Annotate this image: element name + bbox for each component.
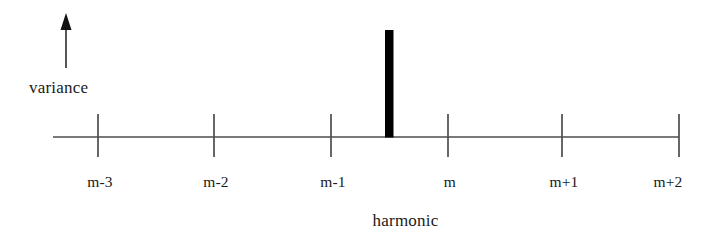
tick-label-m-plus-2: m+2	[653, 173, 682, 191]
x-axis-title: harmonic	[373, 211, 439, 230]
tick-label-m-3: m-3	[87, 173, 113, 191]
variance-spike-bar	[385, 30, 394, 138]
tick-label-m-plus-1: m+1	[549, 173, 578, 191]
up-arrow-icon	[61, 13, 72, 68]
tick-label-m-2: m-2	[203, 173, 229, 191]
arrow-head	[61, 13, 72, 30]
figure-canvas	[0, 0, 717, 245]
harmonic-variance-figure: variance m-3 m-2 m-1 m m+1 m+2 harmonic	[0, 0, 717, 245]
tick-label-m-1: m-1	[320, 173, 346, 191]
x-axis-title-wrapper: harmonic	[0, 212, 717, 229]
tick-label-m: m	[444, 173, 456, 191]
y-axis-label: variance	[29, 79, 88, 96]
